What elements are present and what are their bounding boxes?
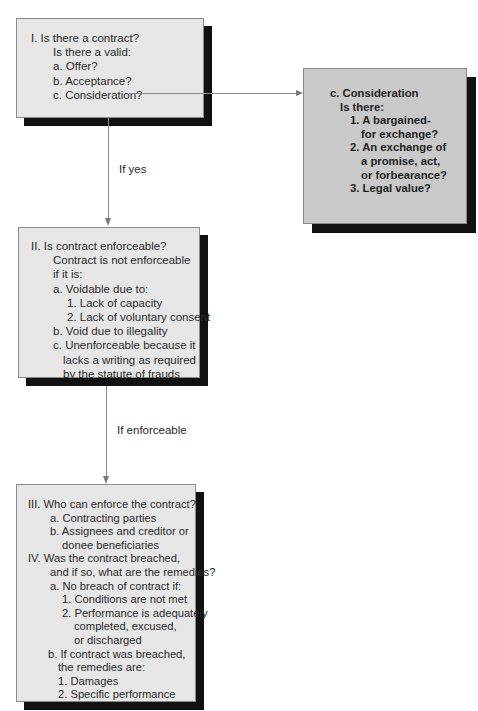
box3-line: 1. Damages [28, 675, 195, 689]
connector-if-yes [108, 118, 109, 222]
box3-line: 2. Performance is adequately [28, 607, 195, 621]
consideration-line: 1. A bargained- [330, 114, 466, 128]
enforceability-box: II. Is contract enforceable? Contract is… [18, 227, 200, 378]
connector-if-enforceable [106, 386, 107, 480]
consideration-line: a promise, act, [330, 155, 466, 169]
box1-line: I. Is there a contract? [31, 31, 203, 45]
box1-line: a. Offer? [31, 59, 203, 73]
box2-line: by the statute of frauds [31, 367, 199, 381]
if-yes-label: If yes [119, 163, 146, 175]
box3-line: IV. Was the contract breached, [28, 552, 195, 566]
box2-line: II. Is contract enforceable? [31, 239, 199, 253]
box2-line: 2. Lack of voluntary consent [31, 310, 199, 324]
box3-line: and if so, what are the remedies? [28, 566, 195, 580]
box3-line: III. Who can enforce the contract? [28, 498, 195, 512]
box3-line: completed, excused, [28, 620, 195, 634]
box2-line: a. Voidable due to: [31, 282, 199, 296]
box3-line: 2. Specific performance [28, 688, 195, 702]
consideration-line: 3. Legal value? [330, 182, 466, 196]
box3-line: a. Contracting parties [28, 512, 195, 526]
box1-line: b. Acceptance? [31, 74, 203, 88]
box2-line: 1. Lack of capacity [31, 296, 199, 310]
box3-line: 1. Conditions are not met [28, 593, 195, 607]
box1-line: Is there a valid: [31, 45, 203, 59]
box2-line: Contract is not enforceable [31, 253, 199, 267]
box3-line: or discharged [28, 634, 195, 648]
arrowhead-right-icon [296, 90, 303, 96]
consideration-line: c. Consideration [330, 87, 466, 101]
box2-line: b. Void due to illegality [31, 324, 199, 338]
box3-line: donee beneficiaries [28, 539, 195, 553]
contract-existence-box: I. Is there a contract? Is there a valid… [16, 18, 204, 118]
consideration-line: or forbearance? [330, 169, 466, 183]
arrowhead-down-icon [105, 218, 111, 226]
connector-consideration [129, 93, 297, 94]
consideration-line: 2. An exchange of [330, 141, 466, 155]
box1-line: c. Consideration? [31, 88, 203, 102]
arrowhead-down-icon [103, 476, 109, 484]
box2-line: if it is: [31, 267, 199, 281]
consideration-line: for exchange? [330, 128, 466, 142]
box2-line: c. Unenforceable because it [31, 338, 199, 352]
enforcement-remedies-box: III. Who can enforce the contract? a. Co… [16, 484, 196, 702]
box3-line: b. Assignees and creditor or [28, 525, 195, 539]
box3-line: b. If contract was breached, [28, 648, 195, 662]
box2-line: lacks a writing as required [31, 353, 199, 367]
box3-line: the remedies are: [28, 661, 195, 675]
consideration-line: Is there: [330, 101, 466, 115]
if-enforceable-label: If enforceable [117, 424, 187, 436]
box3-line: a. No breach of contract if: [28, 580, 195, 594]
consideration-box: c. Consideration Is there: 1. A bargaine… [303, 68, 467, 224]
